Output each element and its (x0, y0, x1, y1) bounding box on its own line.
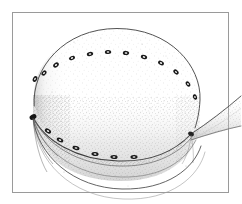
figure-canvas (0, 0, 242, 204)
illustration-plate: Hand-drawn line illustration of a sectio… (0, 0, 242, 204)
